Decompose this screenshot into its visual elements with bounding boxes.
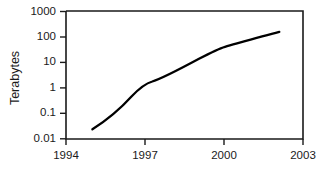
chart-figure: 1000 100 10 1 0.1 0.01 1994 1997 2000 20… bbox=[0, 0, 329, 173]
y-tick-label-100: 100 bbox=[8, 31, 56, 43]
y-tick-label-0-1: 0.1 bbox=[8, 108, 56, 120]
x-tick-label-1997: 1997 bbox=[132, 150, 158, 162]
x-tick-label-2003: 2003 bbox=[290, 150, 316, 162]
y-tick-label-1000: 1000 bbox=[8, 6, 56, 18]
y-tick-label-0-01: 0.01 bbox=[8, 133, 56, 145]
plot-frame bbox=[66, 11, 303, 139]
x-tick-label-1994: 1994 bbox=[53, 150, 79, 162]
x-tick-label-2000: 2000 bbox=[211, 150, 237, 162]
y-axis-ticks bbox=[60, 12, 66, 139]
x-axis-ticks bbox=[66, 139, 303, 145]
y-axis-label: Terabytes bbox=[9, 51, 22, 105]
data-series-terabytes bbox=[92, 32, 279, 130]
